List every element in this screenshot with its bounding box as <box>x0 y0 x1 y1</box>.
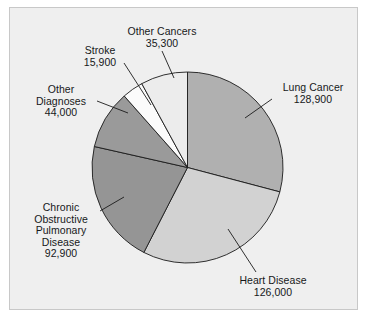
slice-label-other-diagnoses-name1: Other <box>23 84 99 96</box>
slice-label-other-diagnoses: Other Diagnoses 44,000 <box>23 84 99 119</box>
slice-label-other-diagnoses-value: 44,000 <box>23 107 99 119</box>
slice-label-copd-name1: Chronic <box>22 202 100 214</box>
slice-label-lung-cancer-name: Lung Cancer <box>272 82 354 94</box>
slice-label-copd-value: 92,900 <box>22 248 100 260</box>
chart-figure: Other Cancers 35,300 Stroke 15,900 Other… <box>0 0 367 317</box>
slice-label-stroke-value: 15,900 <box>72 57 128 69</box>
slice-label-heart-disease: Heart Disease 126,000 <box>227 275 319 298</box>
slice-label-stroke: Stroke 15,900 <box>72 45 128 68</box>
slice-label-other-cancers-value: 35,300 <box>120 38 204 50</box>
slice-label-lung-cancer-value: 128,900 <box>272 94 354 106</box>
slice-label-lung-cancer: Lung Cancer 128,900 <box>272 82 354 105</box>
slice-label-other-cancers-name: Other Cancers <box>120 26 204 38</box>
pie-slices-group <box>92 72 283 263</box>
slice-label-other-cancers: Other Cancers 35,300 <box>120 26 204 49</box>
slice-label-copd: Chronic Obstructive Pulmonary Disease 92… <box>22 202 100 260</box>
slice-label-heart-disease-value: 126,000 <box>227 287 319 299</box>
slice-label-heart-disease-name: Heart Disease <box>227 275 319 287</box>
slice-label-stroke-name: Stroke <box>72 45 128 57</box>
